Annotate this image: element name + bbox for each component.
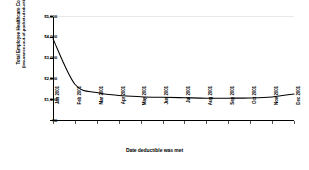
series-line-total-cost [53,39,294,98]
chart-container: $0$1,000$2,000$3,000$4,000$5,000 Total E… [0,0,309,170]
series-line-layer [0,0,309,170]
